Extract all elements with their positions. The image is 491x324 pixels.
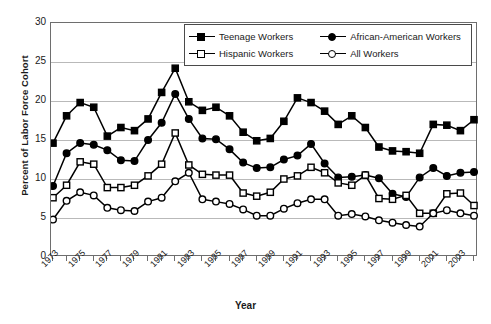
data-point [145, 173, 151, 179]
y-tick-label: 30 [26, 17, 46, 27]
data-point [240, 159, 247, 166]
y-tick-label: 10 [26, 173, 46, 183]
series-line [53, 94, 474, 197]
data-point [159, 89, 165, 95]
data-point [389, 219, 396, 226]
data-point [254, 138, 260, 144]
data-point [186, 116, 193, 123]
data-point [226, 201, 233, 208]
series-line [53, 68, 474, 153]
data-point [376, 195, 382, 201]
y-tick-label: 20 [26, 95, 46, 105]
data-point [131, 158, 138, 165]
data-point [267, 212, 274, 219]
data-point [213, 136, 220, 143]
data-point [308, 141, 315, 148]
data-point [471, 117, 477, 123]
data-point [444, 173, 451, 180]
data-point [199, 107, 205, 113]
data-point [430, 210, 437, 217]
data-point [322, 170, 328, 176]
data-point [376, 217, 383, 224]
data-point [226, 146, 233, 153]
data-point [91, 161, 97, 167]
data-point [430, 121, 436, 127]
x-axis-title: Year [0, 300, 491, 311]
series-teenage-workers [51, 65, 477, 156]
data-point [349, 113, 355, 119]
data-point [51, 183, 56, 190]
data-point [308, 164, 314, 170]
data-point [254, 193, 260, 199]
data-point [145, 116, 151, 122]
data-point [267, 135, 273, 141]
data-point [131, 128, 137, 134]
data-point [77, 159, 83, 165]
data-point [77, 140, 84, 147]
data-point [199, 135, 206, 142]
filled-circle-icon [320, 31, 346, 42]
data-point [362, 213, 369, 220]
data-point [213, 198, 220, 205]
data-point [158, 194, 165, 201]
legend-item-all-workers: All Workers [320, 48, 467, 59]
data-point [294, 173, 300, 179]
data-point [172, 178, 179, 185]
data-point [403, 222, 410, 229]
data-point [118, 207, 125, 214]
open-square-icon [189, 48, 215, 59]
series-line [53, 173, 474, 227]
legend-label: Teenage Workers [219, 31, 293, 42]
open-circle-icon [320, 48, 346, 59]
data-point [376, 175, 383, 182]
data-point [267, 164, 274, 171]
data-point [417, 150, 423, 156]
data-point [348, 173, 355, 180]
legend-item-african-american-workers: African-American Workers [320, 31, 467, 42]
data-point [321, 160, 328, 167]
data-point [159, 161, 165, 167]
data-point [281, 176, 287, 182]
data-point [335, 121, 341, 127]
data-point [240, 190, 246, 196]
data-point [444, 207, 451, 214]
series-african-american-workers [51, 91, 477, 201]
data-point [51, 195, 56, 201]
data-point [131, 208, 138, 215]
data-point [281, 118, 287, 124]
data-point [267, 189, 273, 195]
data-point [430, 165, 437, 172]
data-point [281, 156, 288, 163]
data-point [104, 184, 110, 190]
data-point [335, 212, 342, 219]
data-point [131, 182, 137, 188]
series-line [53, 133, 474, 213]
data-point [471, 202, 477, 208]
data-point [281, 205, 288, 212]
data-point [444, 191, 450, 197]
data-point [51, 216, 56, 223]
data-point [63, 182, 69, 188]
y-tick-label: 15 [26, 134, 46, 144]
y-tick-label: 5 [26, 212, 46, 222]
legend-row: Hispanic Workers All Workers [189, 45, 467, 62]
data-point [308, 196, 315, 203]
data-point [213, 172, 219, 178]
legend-item-teenage-workers: Teenage Workers [189, 31, 320, 42]
legend-row: Teenage Workers African-American Workers [189, 28, 467, 45]
data-point [226, 172, 232, 178]
data-point [471, 212, 478, 219]
data-point [90, 141, 97, 148]
data-point [457, 190, 463, 196]
data-point [158, 120, 165, 127]
data-point [457, 128, 463, 134]
data-point [63, 198, 70, 205]
data-point [457, 169, 464, 176]
data-point [321, 196, 328, 203]
chart-legend: Teenage Workers African-American Workers… [184, 24, 472, 66]
data-point [172, 130, 178, 136]
data-point [213, 104, 219, 110]
legend-item-hispanic-workers: Hispanic Workers [189, 48, 320, 59]
data-point [457, 210, 464, 217]
data-point [199, 171, 205, 177]
